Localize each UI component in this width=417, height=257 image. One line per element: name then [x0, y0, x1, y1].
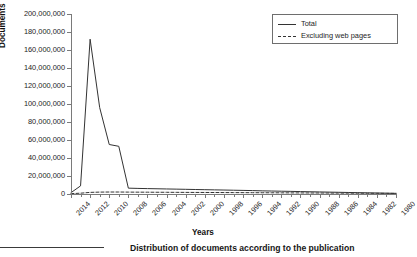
y-tick-label: 160,000,000: [24, 46, 65, 53]
x-tick-major: [300, 194, 301, 198]
x-tick-label: 1992: [285, 200, 302, 217]
figure-caption: Distribution of documents according to t…: [130, 243, 354, 253]
x-tick-minor: [214, 194, 215, 197]
series-line-total: [71, 39, 396, 193]
y-tick-label: 60,000,000: [28, 136, 65, 143]
figure-caption-strip: Distribution of documents according to t…: [0, 243, 406, 257]
x-tick-major: [90, 194, 91, 198]
y-tick: [67, 158, 71, 159]
x-tick-major: [147, 194, 148, 198]
x-tick-minor: [234, 194, 235, 197]
x-tick-label: 1994: [266, 200, 283, 217]
x-tick-label: 2012: [94, 200, 111, 217]
x-tick-major: [71, 194, 72, 198]
legend-label-total: Total: [301, 20, 317, 27]
y-tick: [67, 122, 71, 123]
legend-swatch-solid-icon: [278, 21, 296, 28]
x-tick-label: 2006: [151, 200, 168, 217]
y-tick-label: 0: [61, 190, 65, 197]
x-tick-label: 1980: [400, 200, 417, 217]
x-tick-label: 2002: [190, 200, 207, 217]
x-tick-label: 1998: [228, 200, 245, 217]
y-tick: [67, 68, 71, 69]
x-tick-minor: [157, 194, 158, 197]
y-tick: [67, 86, 71, 87]
x-tick-major: [320, 194, 321, 198]
x-tick-major: [377, 194, 378, 198]
caption-divider: [0, 247, 104, 248]
y-tick-label: 20,000,000: [28, 172, 65, 179]
x-tick-minor: [310, 194, 311, 197]
x-tick-label: 1982: [381, 200, 398, 217]
x-tick-label: 1990: [304, 200, 321, 217]
legend-box: Total Excluding web pages: [272, 14, 398, 44]
x-tick-major: [396, 194, 397, 198]
x-tick-major: [281, 194, 282, 198]
x-tick-label: 1988: [323, 200, 340, 217]
x-tick-minor: [272, 194, 273, 197]
y-tick-label: 80,000,000: [28, 118, 65, 125]
legend-entry-excluding-web-pages: Excluding web pages: [278, 30, 392, 42]
y-tick: [67, 50, 71, 51]
x-tick-label: 2000: [209, 200, 226, 217]
y-tick-label: 40,000,000: [28, 154, 65, 161]
y-tick: [67, 32, 71, 33]
x-tick-major: [205, 194, 206, 198]
legend-entry-total: Total: [278, 18, 392, 30]
y-tick-label: 200,000,000: [24, 10, 65, 17]
x-tick-major: [224, 194, 225, 198]
x-tick-label: 2008: [132, 200, 149, 217]
x-tick-major: [358, 194, 359, 198]
x-tick-minor: [176, 194, 177, 197]
y-axis-title: Documents: [0, 3, 7, 48]
y-tick-label: 180,000,000: [24, 28, 65, 35]
x-tick-label: 1996: [247, 200, 264, 217]
x-tick-major: [186, 194, 187, 198]
legend-label-excluding-web-pages: Excluding web pages: [301, 32, 371, 39]
x-tick-minor: [291, 194, 292, 197]
x-tick-major: [262, 194, 263, 198]
legend-swatch-dashed-icon: [278, 33, 296, 40]
y-tick-label: 100,000,000: [24, 100, 65, 107]
x-tick-major: [167, 194, 168, 198]
x-tick-major: [339, 194, 340, 198]
x-tick-major: [128, 194, 129, 198]
x-tick-minor: [195, 194, 196, 197]
y-axis-line: [71, 14, 72, 194]
y-tick-label: 140,000,000: [24, 64, 65, 71]
y-tick: [67, 104, 71, 105]
x-tick-label: 2014: [75, 200, 92, 217]
x-tick-label: 1984: [362, 200, 379, 217]
y-tick: [67, 14, 71, 15]
x-tick-minor: [100, 194, 101, 197]
x-tick-minor: [253, 194, 254, 197]
y-tick-label: 120,000,000: [24, 82, 65, 89]
y-tick: [67, 176, 71, 177]
x-tick-label: 2010: [113, 200, 130, 217]
x-tick-minor: [348, 194, 349, 197]
x-tick-minor: [367, 194, 368, 197]
x-tick-label: 2004: [170, 200, 187, 217]
x-tick-minor: [386, 194, 387, 197]
x-tick-minor: [119, 194, 120, 197]
x-tick-minor: [138, 194, 139, 197]
y-tick: [67, 140, 71, 141]
x-tick-label: 1986: [342, 200, 359, 217]
x-tick-minor: [329, 194, 330, 197]
x-tick-minor: [81, 194, 82, 197]
x-tick-major: [109, 194, 110, 198]
x-tick-major: [243, 194, 244, 198]
x-axis-title: Years: [0, 228, 406, 237]
